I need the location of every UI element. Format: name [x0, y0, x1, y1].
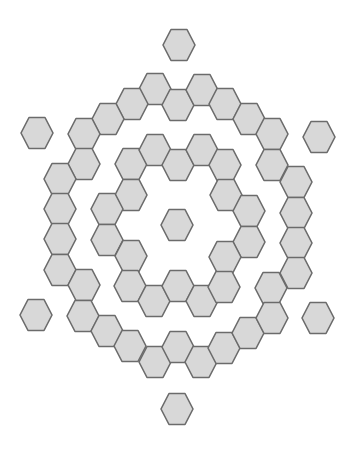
hexagon-outer-ring-12	[44, 224, 76, 255]
hexagon-inner-ring-17	[208, 272, 240, 303]
hexagon-diagram-svg	[0, 0, 356, 455]
hexagon-outer-ring-16	[280, 167, 312, 198]
hexagon-outliers-2	[303, 122, 335, 153]
hexagon-inner-ring-8	[115, 241, 147, 272]
hexagon-outer-ring-20	[255, 273, 287, 304]
hexagon-outer-ring-18	[280, 228, 312, 259]
hexagon-outer-ring-17	[280, 198, 312, 229]
hexagon-inner-ring-4	[209, 150, 241, 181]
hexagon-outliers-1	[21, 118, 53, 149]
hexagon-center-0	[161, 210, 193, 241]
hexagon-inner-ring-10	[233, 196, 265, 227]
hexagon-outliers-0	[163, 30, 195, 61]
hexagon-outer-ring-14	[68, 270, 100, 301]
hexagon-outer-ring-8	[256, 119, 288, 150]
hexagon-outliers-4	[302, 303, 334, 334]
hexagon-inner-ring-12	[209, 242, 241, 273]
hexagon-inner-ring-6	[91, 194, 123, 225]
hexagon-outer-ring-5	[68, 119, 100, 150]
hexagon-outliers-5	[161, 394, 193, 425]
hexagon-group-center	[161, 210, 193, 241]
hexagon-outer-ring-11	[44, 194, 76, 225]
hexagon-diagram	[0, 0, 356, 455]
hexagon-outliers-3	[20, 300, 52, 331]
hexagon-outer-ring-29	[256, 303, 288, 334]
hexagon-outer-ring-10	[44, 164, 76, 195]
